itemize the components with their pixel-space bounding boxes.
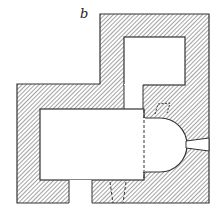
corridor	[124, 84, 143, 110]
door-opening	[69, 180, 92, 204]
main-hall	[40, 109, 144, 180]
floor-plan	[0, 0, 223, 220]
upper-room	[124, 37, 185, 85]
